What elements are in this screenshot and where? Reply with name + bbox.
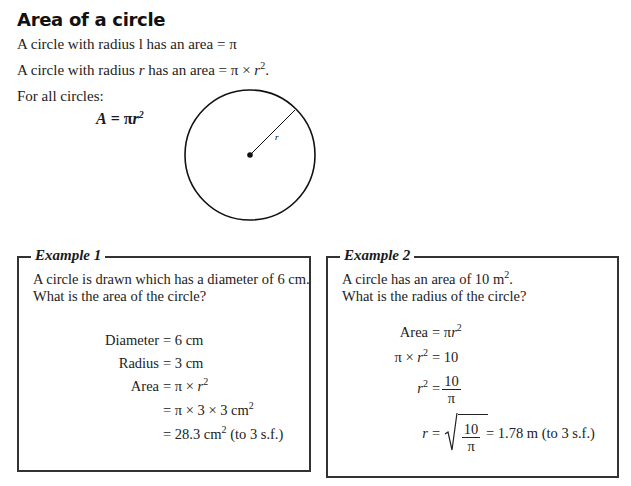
circle-diagram: r	[180, 85, 320, 230]
example-1-step-2-rhs: = 3 cm	[163, 355, 203, 372]
square-root: 10π	[444, 414, 489, 455]
example-1-step-4: = π × 3 × 3 cm2	[163, 402, 254, 419]
intro-line-2: A circle with radius r has an area = π ×…	[17, 62, 269, 79]
example-2-step-4-rhs: = 10π	[432, 414, 488, 455]
example-1-step-5: = 28.3 cm2 (to 3 s.f.)	[163, 426, 283, 443]
page-title: Area of a circle	[17, 9, 165, 30]
area-formula: A = πr2	[96, 110, 144, 128]
example-1-step-3-rhs: = π × r2	[163, 378, 208, 395]
intro-line-3: For all circles:	[17, 88, 104, 105]
example-2-step-4: r	[328, 414, 428, 452]
example-1-step-1-rhs: = 6 cm	[163, 332, 203, 349]
example-2-step-1: Area	[328, 324, 428, 341]
example-2-step-3: r2	[328, 370, 428, 406]
example-1-question: A circle is drawn which has a diameter o…	[33, 271, 310, 305]
example-2-result: = 1.78 m (to 3 s.f.)	[486, 414, 595, 452]
example-2-title: Example 2	[340, 247, 414, 264]
example-1-box: Example 1 A circle is drawn which has a …	[17, 256, 311, 472]
example-1-title: Example 1	[31, 247, 105, 264]
example-2-step-1-rhs: = πr2	[432, 324, 462, 341]
radius-label: r	[275, 132, 279, 142]
example-2-step-2-rhs: = 10	[432, 349, 458, 366]
example-2-step-3-rhs: =10π	[432, 370, 463, 406]
example-1-step-2: Radius	[19, 355, 159, 372]
example-2-step-2: π × r2	[328, 349, 428, 366]
intro-line-1: A circle with radius l has an area = π	[17, 36, 237, 53]
example-2-question: A circle has an area of 10 m2. What is t…	[342, 271, 526, 305]
example-2-box: Example 2 A circle has an area of 10 m2.…	[326, 256, 619, 478]
example-1-step-3: Area	[19, 378, 159, 395]
example-1-step-1: Diameter	[19, 332, 159, 349]
